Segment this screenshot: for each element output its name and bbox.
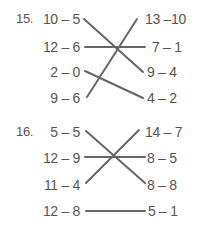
matching-lines [0,0,197,226]
match-line [84,19,143,72]
match-line [85,71,143,98]
match-line [87,19,137,97]
